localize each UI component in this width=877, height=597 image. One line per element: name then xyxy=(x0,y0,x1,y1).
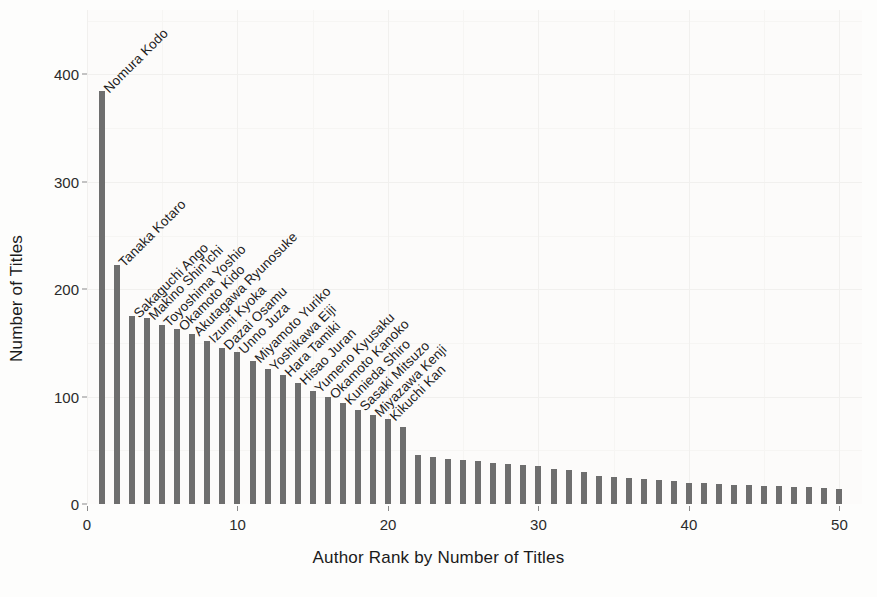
bar xyxy=(385,419,391,504)
bar xyxy=(325,397,331,504)
bar xyxy=(641,479,647,504)
x-tick-mark xyxy=(388,506,389,511)
bar xyxy=(806,487,812,504)
y-tick-label: 100 xyxy=(33,388,79,405)
bar xyxy=(551,469,557,504)
gridline xyxy=(87,74,862,75)
gridline xyxy=(689,10,690,504)
bar xyxy=(340,403,346,504)
bar xyxy=(370,415,376,504)
x-tick-mark xyxy=(237,506,238,511)
bar xyxy=(520,465,526,504)
gridline xyxy=(87,10,88,504)
bar xyxy=(174,329,180,504)
bar xyxy=(265,369,271,504)
y-tick-label: 400 xyxy=(33,66,79,83)
bar xyxy=(596,476,602,504)
bar xyxy=(716,484,722,504)
x-tick-mark xyxy=(87,506,88,511)
bar xyxy=(731,485,737,504)
bar xyxy=(626,478,632,504)
bar xyxy=(114,265,120,504)
bar xyxy=(189,334,195,504)
bar xyxy=(836,489,842,504)
gridline xyxy=(764,10,765,504)
bar xyxy=(250,361,256,504)
bar xyxy=(581,472,587,504)
bar xyxy=(415,455,421,504)
gridline xyxy=(87,182,862,183)
y-tick-label: 200 xyxy=(33,281,79,298)
x-axis-title: Author Rank by Number of Titles xyxy=(0,548,877,568)
x-tick-label: 40 xyxy=(681,516,698,533)
gridline xyxy=(87,21,862,22)
x-tick-label: 20 xyxy=(380,516,397,533)
bar xyxy=(701,483,707,504)
bar xyxy=(490,463,496,504)
gridline xyxy=(87,450,862,451)
bar xyxy=(219,348,225,504)
x-axis-ticks: 01020304050 xyxy=(0,506,877,546)
bar xyxy=(460,460,466,504)
bar xyxy=(505,464,511,504)
gridline xyxy=(87,236,862,237)
gridline xyxy=(614,10,615,504)
bar xyxy=(791,487,797,504)
chart-figure: Number of Titles 0100200300400 010203040… xyxy=(0,0,877,597)
bar xyxy=(400,427,406,504)
bar xyxy=(671,481,677,504)
bar xyxy=(280,375,286,504)
bar xyxy=(295,383,301,504)
x-tick-mark xyxy=(839,506,840,511)
bar xyxy=(821,488,827,504)
bar xyxy=(234,352,240,504)
bar xyxy=(355,410,361,505)
gridline xyxy=(463,10,464,504)
bar xyxy=(776,486,782,504)
bar xyxy=(566,470,572,504)
x-tick-label: 10 xyxy=(229,516,246,533)
bar xyxy=(445,459,451,504)
gridline xyxy=(839,10,840,504)
gridline xyxy=(87,343,862,344)
y-tick-label: 300 xyxy=(33,173,79,190)
bar xyxy=(656,480,662,504)
bar xyxy=(204,341,210,504)
x-tick-mark xyxy=(538,506,539,511)
bar xyxy=(761,486,767,504)
bar xyxy=(611,477,617,504)
x-tick-label: 30 xyxy=(530,516,547,533)
bar xyxy=(475,461,481,504)
bar xyxy=(310,391,316,504)
bar xyxy=(746,485,752,504)
x-tick-label: 50 xyxy=(831,516,848,533)
bar xyxy=(99,91,105,504)
x-tick-label: 0 xyxy=(83,516,91,533)
bar xyxy=(535,466,541,504)
bar xyxy=(430,457,436,504)
bar xyxy=(159,325,165,504)
bar xyxy=(144,318,150,504)
gridline xyxy=(87,397,862,398)
bar xyxy=(129,316,135,504)
gridline xyxy=(87,128,862,129)
bar xyxy=(686,483,692,504)
gridline xyxy=(538,10,539,504)
x-tick-mark xyxy=(689,506,690,511)
